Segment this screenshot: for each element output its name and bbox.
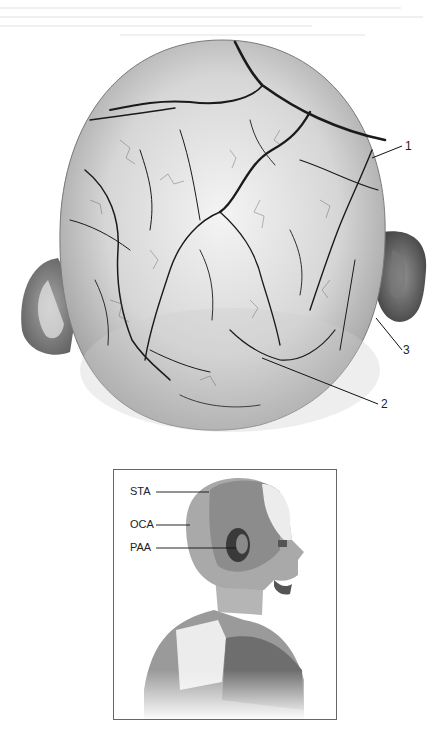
sta-label: STA bbox=[130, 485, 151, 497]
callout-line-1 bbox=[372, 146, 402, 158]
callout-2-label: 2 bbox=[381, 397, 388, 411]
inset-territory-diagram: STA OCA PAA bbox=[113, 469, 337, 720]
scalp-vascular-illustration bbox=[0, 0, 445, 460]
callout-1-label: 1 bbox=[405, 139, 412, 153]
callout-line-3 bbox=[376, 318, 402, 350]
paa-label: PAA bbox=[130, 541, 151, 553]
callout-3-label: 3 bbox=[403, 343, 410, 357]
head-territory-illustration bbox=[114, 470, 337, 720]
oca-label: OCA bbox=[130, 518, 154, 530]
